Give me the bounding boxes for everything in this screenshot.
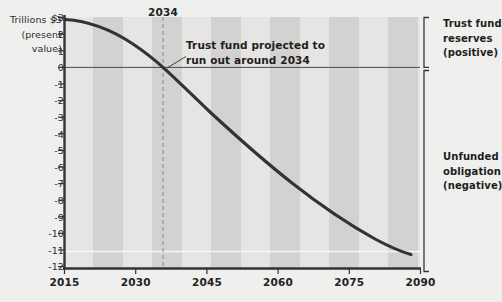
x-tick-label: 2075	[319, 276, 379, 288]
bracket-label-negative-line-3: (negative)	[443, 179, 489, 194]
x-tick-label: 2030	[106, 276, 166, 288]
y-tick-label: -12	[28, 261, 64, 272]
crossover-annotation-line-2: run out around 2034	[186, 53, 376, 68]
bracket-label-positive-line-3: (positive)	[443, 46, 489, 61]
y-tick-label: -5	[28, 145, 64, 156]
y-tick-label: -9	[28, 212, 64, 223]
y-tick-label: -1	[28, 79, 64, 90]
y-tick-label: -4	[28, 129, 64, 140]
bracket-label-negative: Unfunded obligation (negative)	[443, 150, 489, 194]
y-tick-label: -8	[28, 195, 64, 206]
y-tick-label: -11	[28, 245, 64, 256]
bracket-label-positive: Trust fund reserves (positive)	[443, 17, 489, 61]
y-tick-label: 1	[28, 46, 64, 57]
y-tick-label: -2	[28, 95, 64, 106]
bracket-label-negative-line-2: obligation	[443, 165, 489, 180]
bracket-positive	[424, 18, 429, 68]
y-tick-label: $3	[28, 12, 64, 23]
y-tick-label-group: $3 2 1 0 -1 -2 -3 -4 -5 -6 -7 -8 -9 -10 …	[24, 0, 64, 302]
y-tick-label: -6	[28, 162, 64, 173]
bracket-label-positive-line-1: Trust fund	[443, 17, 489, 32]
x-tick-marks	[65, 269, 421, 274]
crossover-annotation-line-1: Trust fund projected to	[186, 38, 376, 53]
x-tick-label: 2045	[177, 276, 237, 288]
y-tick-label: -3	[28, 112, 64, 123]
year-2034-marker-label: 2034	[128, 6, 198, 18]
y-tick-label: -10	[28, 228, 64, 239]
y-tick-label: 2	[28, 29, 64, 40]
y-tick-label: 0	[28, 62, 64, 73]
bracket-label-negative-line-1: Unfunded	[443, 150, 489, 165]
x-tick-label: 2090	[391, 276, 451, 288]
bracket-label-positive-line-2: reserves	[443, 32, 489, 47]
y-tick-label: -7	[28, 178, 64, 189]
crossover-annotation: Trust fund projected to run out around 2…	[186, 38, 376, 68]
x-tick-label: 2015	[35, 276, 95, 288]
x-tick-label: 2060	[248, 276, 308, 288]
bracket-negative	[424, 71, 429, 272]
